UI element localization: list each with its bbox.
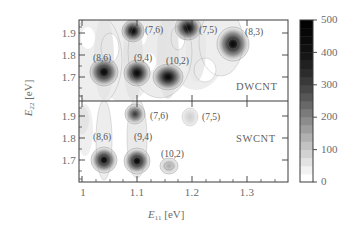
colorbar [300, 20, 317, 182]
annotation-dwcnt-7-5: (7,5) [199, 25, 217, 36]
y-axis-symbol: E [22, 110, 34, 117]
cbar-label-100: 100 [321, 143, 338, 155]
colorbar-band-2 [300, 158, 313, 167]
cbar-label-200: 200 [321, 110, 338, 122]
colorbar-band-3 [300, 150, 313, 159]
x-axis-unit: [eV] [164, 208, 184, 220]
peak-dwcnt-7-6-high [121, 19, 145, 43]
y-axis-title: E22 [eV] [22, 78, 34, 118]
colorbar-band-17 [300, 36, 313, 45]
colorbar-band-19 [300, 20, 313, 29]
x-axis-symbol: E [148, 208, 155, 220]
colorbar-band-16 [300, 44, 313, 53]
colorbar-band-11 [300, 85, 313, 94]
colorbar-band-12 [300, 77, 313, 86]
colorbar-band-13 [300, 69, 313, 78]
annotation-dwcnt-8-6: (8,6) [93, 53, 111, 64]
peak-dwcnt-10-2-low [152, 63, 184, 91]
colorbar-band-5 [300, 133, 313, 142]
peak-dwcnt-9-4-low [123, 59, 151, 87]
ytick-label-bottom-1-9: 1.9 [48, 110, 76, 122]
annotation-dwcnt-9-4: (9,4) [134, 53, 152, 64]
annotation-swcnt-7-5: (7,5) [202, 112, 220, 123]
colorbar-band-8 [300, 109, 313, 118]
panel-tag-swcnt: SWCNT [236, 133, 276, 144]
xtick-label-0: 1 [78, 186, 88, 198]
colorbar-band-0 [300, 174, 313, 183]
xtick-label-1: 1.1 [124, 186, 150, 198]
ytick-label-top-1-8: 1.8 [48, 49, 76, 61]
annotation-swcnt-9-4: (9,4) [134, 132, 152, 143]
colorbar-band-9 [300, 101, 313, 110]
cbar-label-0: 0 [321, 175, 327, 187]
peak-swcnt-edge [75, 106, 89, 134]
panel-tag-dwcnt: DWCNT [236, 81, 278, 92]
x-axis-subscript: 11 [155, 214, 162, 222]
colorbar-band-10 [300, 93, 313, 102]
y-axis-title-wrapper: E22 [eV] [22, 78, 42, 118]
colorbar-band-6 [300, 125, 313, 134]
colorbar-band-7 [300, 117, 313, 126]
annotation-swcnt-8-6: (8,6) [93, 132, 111, 143]
ytick-label-bottom-1-8: 1.8 [48, 132, 76, 144]
y-axis-subscript: 22 [28, 103, 36, 110]
colorbar-band-14 [300, 61, 313, 70]
xtick-label-2: 1.2 [179, 186, 205, 198]
cbar-label-400: 400 [321, 46, 338, 58]
y-axis-unit: [eV] [22, 80, 34, 100]
ytick-label-bottom-1-7: 1.7 [48, 154, 76, 166]
cbar-label-300: 300 [321, 78, 338, 90]
colorbar-band-15 [300, 52, 313, 61]
colorbar-band-1 [300, 166, 313, 175]
annotation-swcnt-10-2: (10,2) [161, 149, 184, 160]
annotation-dwcnt-8-3: (8,3) [245, 27, 263, 38]
colorbar-band-4 [300, 142, 313, 151]
annotation-dwcnt-10-2: (10,2) [166, 56, 189, 67]
peak-dwcnt-7-5-high [174, 15, 202, 41]
annotation-dwcnt-7-6: (7,6) [145, 25, 163, 36]
ytick-label-top-1-9: 1.9 [48, 27, 76, 39]
ytick-label-top-1-7: 1.7 [48, 71, 76, 83]
x-axis-title: E11 [eV] [148, 208, 184, 220]
xtick-label-3: 1.3 [234, 186, 260, 198]
annotation-swcnt-7-6: (7,6) [150, 111, 168, 122]
colorbar-band-18 [300, 28, 313, 36]
ple-contour-figure: (8,6) (9,4) (7,6) (10,2) (7,5) (8,3) (8,… [0, 0, 354, 233]
cbar-label-500: 500 [321, 13, 338, 25]
